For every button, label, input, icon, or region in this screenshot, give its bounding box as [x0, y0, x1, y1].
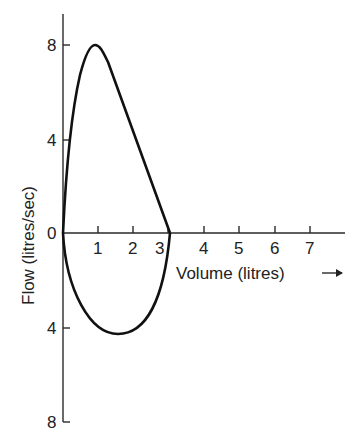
x-label-1: 1 — [93, 239, 102, 258]
x-axis-title: Volume (litres) — [176, 264, 285, 283]
arrow-right-icon — [322, 269, 343, 277]
x-label-7: 7 — [305, 239, 314, 258]
x-label-3: 3 — [155, 239, 164, 258]
x-label-2: 2 — [128, 239, 137, 258]
y-label-0: 0 — [47, 224, 56, 243]
y-label-4-up: 4 — [47, 131, 56, 150]
y-label-8-down: 8 — [47, 413, 56, 432]
y-axis-title: Flow (litres/sec) — [19, 186, 38, 305]
expiratory-flow-curve — [63, 45, 170, 233]
x-label-4: 4 — [199, 239, 208, 258]
inspiratory-flow-curve — [63, 233, 170, 334]
y-label-8-up: 8 — [47, 36, 56, 55]
x-label-6: 6 — [270, 239, 279, 258]
y-label-4-down: 4 — [47, 319, 56, 338]
flow-volume-chart: 8 4 0 4 8 1 2 3 4 5 6 7 Volume (litres) … — [0, 0, 361, 444]
x-label-5: 5 — [234, 239, 243, 258]
